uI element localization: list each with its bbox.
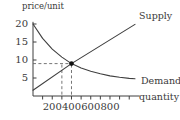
supply-curve bbox=[33, 24, 135, 90]
y-tick-label-20: 20 bbox=[6, 18, 28, 30]
y-tick-label-10: 10 bbox=[6, 54, 28, 66]
supply-demand-figure: price/unit Supply Demand quantity 201510… bbox=[0, 0, 180, 120]
x-tick-label-800: 800 bbox=[97, 101, 123, 113]
y-axis-title: price/unit bbox=[22, 2, 64, 11]
equilibrium-point bbox=[69, 61, 74, 66]
demand-curve bbox=[33, 24, 135, 79]
supply-curve-label: Supply bbox=[139, 11, 172, 21]
y-tick-label-15: 15 bbox=[6, 36, 28, 48]
x-axis-title: quantity bbox=[139, 92, 179, 102]
demand-curve-label: Demand bbox=[141, 76, 180, 86]
y-tick-label-5: 5 bbox=[6, 72, 28, 84]
